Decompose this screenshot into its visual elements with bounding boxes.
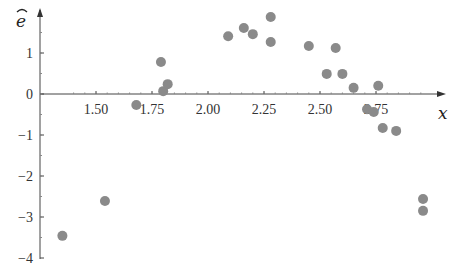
y-axis-arrow-icon [37,8,43,17]
x-tick-label: 2.50 [308,102,333,117]
y-tick-label: −1 [18,128,33,143]
data-point [248,29,258,39]
x-axis-arrow-icon [437,91,446,97]
data-point [322,69,332,79]
data-point [223,31,233,41]
y-axis-label: e [16,11,26,31]
axes [37,8,446,259]
data-point [418,206,428,216]
y-tick-label: 0 [26,87,33,102]
data-point [156,57,166,67]
x-tick-label: 2.25 [252,102,277,117]
y-tick-label: −3 [18,210,33,225]
data-point [163,79,173,89]
x-tick-label: 1.75 [140,102,165,117]
x-axis-label: x [438,103,448,123]
data-point [337,69,347,79]
data-point [349,83,359,93]
data-point [304,41,314,51]
data-point [239,23,249,33]
data-point [331,43,341,53]
data-point [418,194,428,204]
data-point [100,196,110,206]
data-point [57,231,67,241]
x-tick-label: 2.00 [196,102,221,117]
y-tick-label: 1 [26,46,33,61]
residual-scatter-plot: 1.501.752.002.252.502.75 −4−3−2−101 x e [0,0,456,267]
data-point [131,100,141,110]
data-point [378,123,388,133]
y-tick-label: −4 [18,251,33,266]
x-tick-label: 1.50 [84,102,109,117]
data-point [266,12,276,22]
y-tick-label: −2 [18,169,33,184]
data-point [369,107,379,117]
data-point [266,37,276,47]
data-point [373,81,383,91]
data-point [391,126,401,136]
data-points [57,12,428,241]
